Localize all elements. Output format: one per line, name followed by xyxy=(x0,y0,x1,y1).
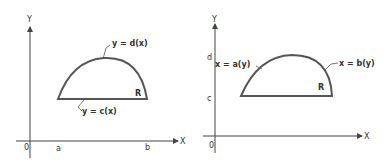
left-origin-label: 0 xyxy=(24,143,29,152)
tick-b-label: b xyxy=(145,143,150,152)
right-diagram: Y X 0 d c x = a(y) x = b(y) R xyxy=(203,15,375,153)
left-region-boundary xyxy=(58,58,147,99)
right-region-label: R xyxy=(318,83,324,92)
right-curve-leader xyxy=(324,63,338,71)
region-diagrams: Y X 0 a b y = d(x) y = c(x) R Y X 0 d c … xyxy=(0,0,392,166)
left-region-label: R xyxy=(135,89,141,98)
tick-d-label: d xyxy=(207,53,212,62)
lower-curve-label: y = c(x) xyxy=(82,107,117,116)
left-x-label: X xyxy=(180,137,186,146)
upper-curve-leader xyxy=(103,45,110,59)
right-origin-label: 0 xyxy=(209,141,214,150)
right-curve-label: x = b(y) xyxy=(339,59,375,68)
tick-a-label: a xyxy=(56,144,61,153)
right-x-label: X xyxy=(364,132,370,141)
tick-c-label: c xyxy=(207,94,211,103)
left-diagram: Y X 0 a b y = d(x) y = c(x) R xyxy=(16,15,186,158)
left-curve-label: x = a(y) xyxy=(215,60,250,69)
right-y-label: Y xyxy=(211,15,217,24)
left-y-label: Y xyxy=(26,15,32,24)
upper-curve-label: y = d(x) xyxy=(112,39,148,48)
